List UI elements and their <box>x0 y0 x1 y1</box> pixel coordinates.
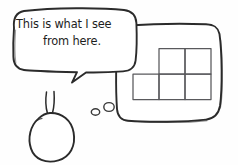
antenna-left-icon <box>46 92 48 113</box>
puff-small-icon <box>91 109 99 115</box>
round-creature <box>29 92 74 162</box>
speech-line-2: from here. <box>21 33 123 50</box>
speech-line-1: This is what I see <box>16 16 123 33</box>
scene-root: This is what I see from here. <box>0 0 238 165</box>
speech-bubble-text: This is what I see from here. <box>17 16 123 49</box>
puff-marks <box>91 103 114 116</box>
puff-large-icon <box>104 103 114 112</box>
antenna-right-icon <box>53 92 55 113</box>
creature-body <box>29 113 74 162</box>
